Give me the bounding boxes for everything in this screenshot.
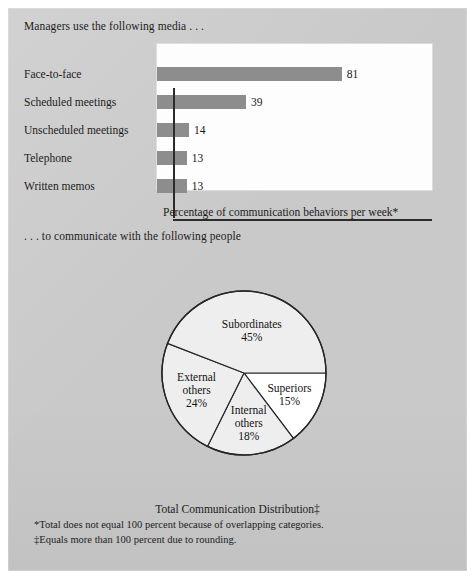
bar-chart-caption: Percentage of communication behaviors pe… (163, 206, 398, 218)
bar-track: 81 (157, 60, 467, 88)
pie-slice-label-line: 18% (238, 429, 260, 441)
lead-text-media: Managers use the following media . . . (24, 20, 204, 32)
bar-category-label: Written memos (24, 180, 157, 192)
bar-value-label: 13 (192, 152, 204, 164)
bar-fill (157, 179, 187, 193)
bar-value-label: 39 (251, 96, 263, 108)
bar-category-label: Telephone (24, 152, 157, 164)
pie-slice-label-line: Superiors (267, 382, 312, 395)
footnote-rounding: ‡Equals more than 100 percent due to rou… (34, 533, 444, 548)
bar-track: 13 (157, 172, 467, 200)
bar-row: Unscheduled meetings 14 (24, 116, 467, 144)
pie-chart-caption: Total Communication Distribution‡ (0, 503, 475, 515)
bar-row: Written memos 13 (24, 172, 467, 200)
pie-slice-label-line: Subordinates (222, 317, 283, 329)
pie-chart: Superiors15%Internalothers18%Externaloth… (8, 248, 467, 503)
lead-text-people: . . . to communicate with the following … (24, 230, 241, 242)
pie-slice-label-line: 24% (186, 397, 208, 409)
bar-value-label: 14 (194, 124, 206, 136)
figure-root: Managers use the following media . . . F… (0, 0, 475, 577)
footnotes: *Total does not equal 100 percent becaus… (34, 518, 444, 547)
pie-slice-label-line: others (183, 384, 212, 396)
bar-chart: Face-to-face 81 Scheduled meetings 39 Un… (8, 36, 467, 196)
bar-track: 14 (157, 116, 467, 144)
bar-value-label: 81 (347, 68, 359, 80)
bar-chart-y-axis (173, 88, 175, 218)
bar-chart-x-axis (173, 219, 432, 221)
pie-slice-label-line: External (177, 371, 216, 383)
pie-slice-label-line: others (235, 416, 264, 428)
bar-fill (157, 67, 342, 81)
bar-track: 13 (157, 144, 467, 172)
pie-slice-label-line: 45% (241, 330, 263, 342)
bar-row: Telephone 13 (24, 144, 467, 172)
bar-fill (157, 95, 246, 109)
pie-chart-svg: Superiors15%Internalothers18%Externaloth… (8, 248, 467, 503)
bar-row: Scheduled meetings 39 (24, 88, 467, 116)
bar-category-label: Scheduled meetings (24, 96, 157, 108)
bar-value-label: 13 (192, 180, 204, 192)
bar-category-label: Face-to-face (24, 68, 157, 80)
bar-track: 39 (157, 88, 467, 116)
bar-rows: Face-to-face 81 Scheduled meetings 39 Un… (24, 60, 467, 200)
bar-fill (157, 151, 187, 165)
bar-row: Face-to-face 81 (24, 60, 467, 88)
footnote-total-overlap: *Total does not equal 100 percent becaus… (34, 518, 444, 533)
bar-category-label: Unscheduled meetings (24, 124, 157, 136)
pie-slice-label-line: Internal (231, 403, 267, 415)
pie-slice-label-line: 15% (279, 395, 301, 407)
